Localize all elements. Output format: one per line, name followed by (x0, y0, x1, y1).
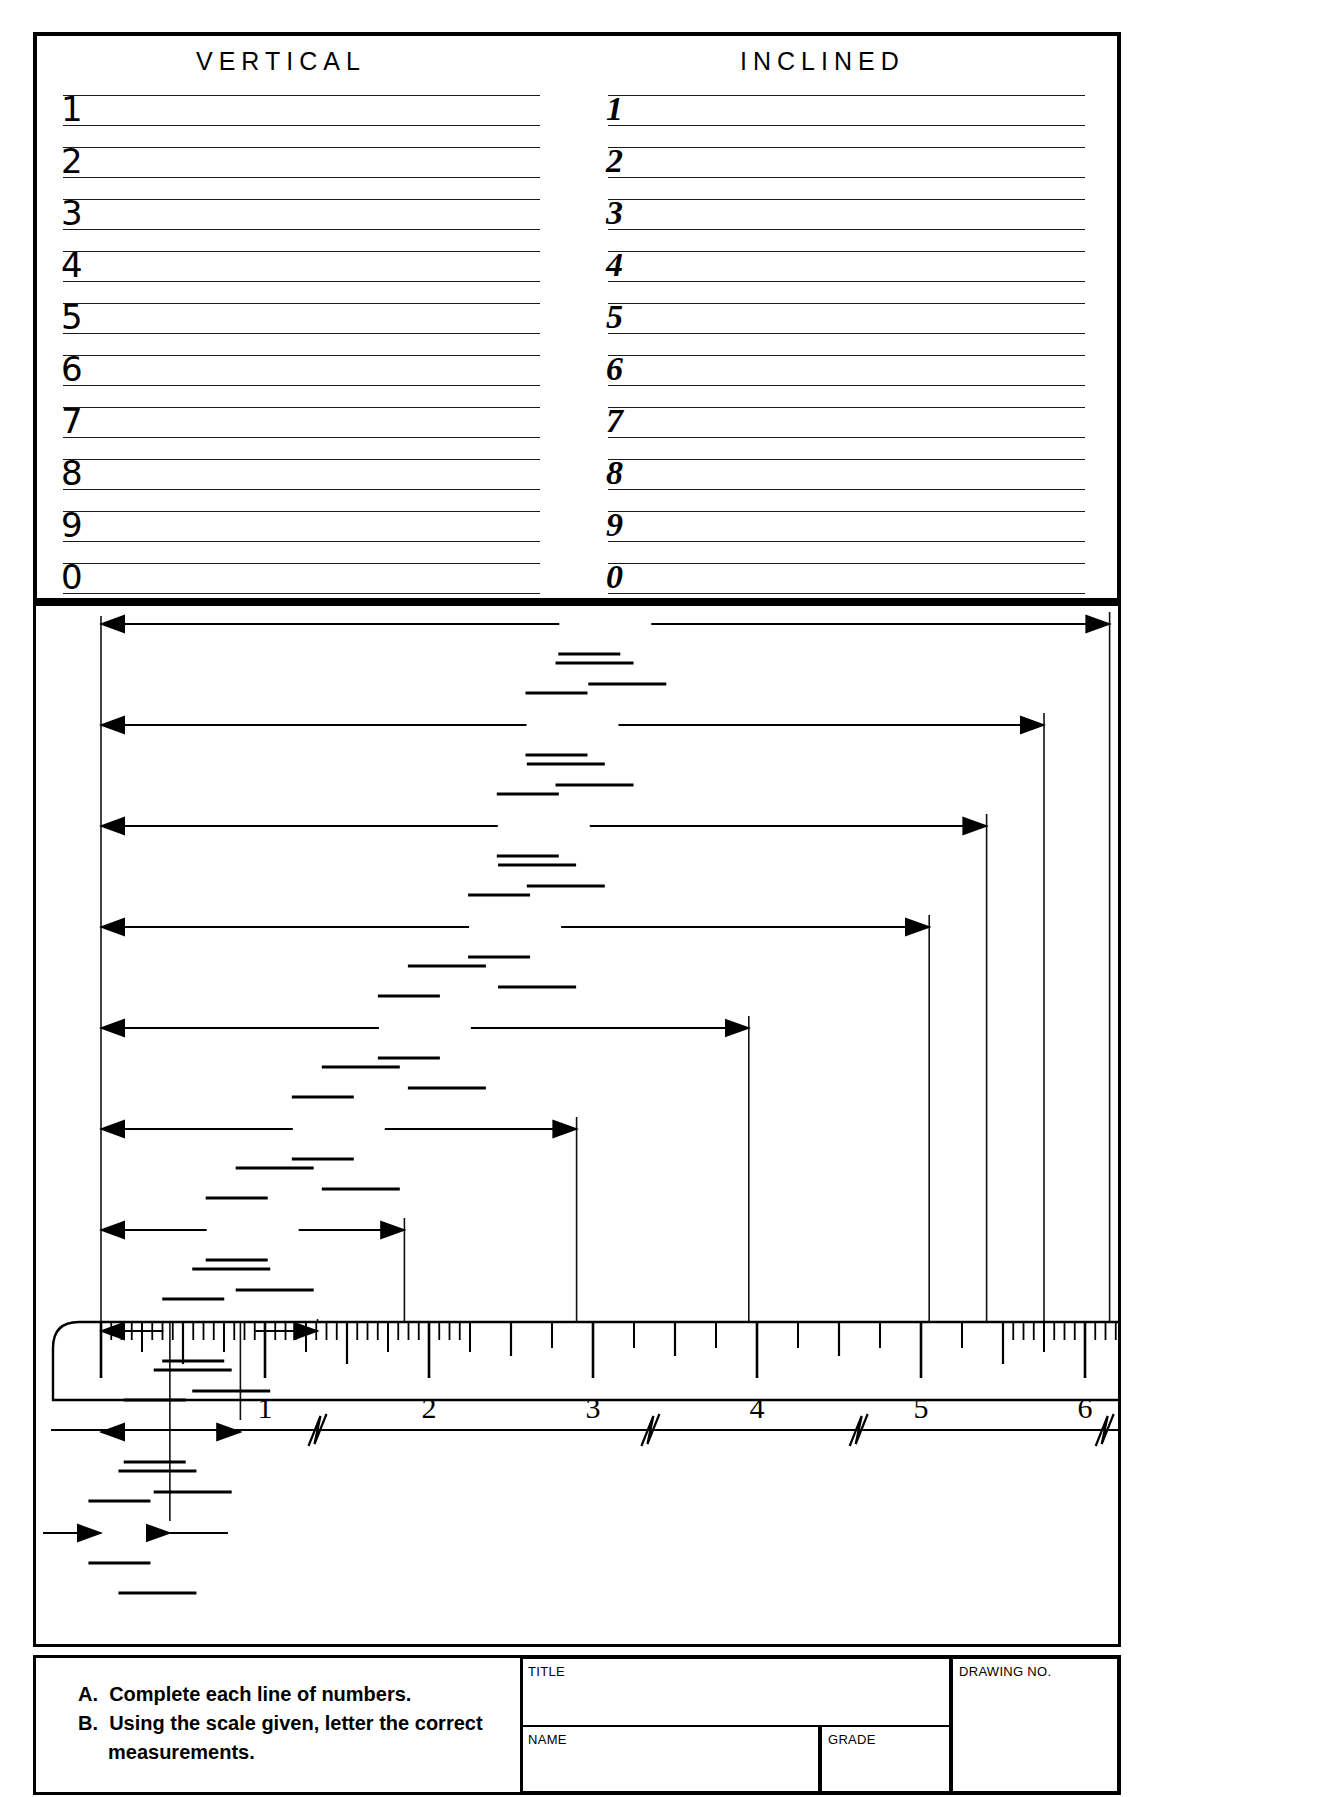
guide-line-top (608, 355, 1085, 356)
guide-line-bottom (63, 333, 540, 334)
ruler-tick-label-4: 4 (750, 1391, 765, 1424)
row-label-3-vertical: 3 (61, 196, 83, 230)
row-label-0-inclined: 0 (606, 560, 623, 594)
ruler-tick-label-1: 1 (258, 1391, 273, 1424)
field-label-drawing-no: DRAWING NO. (959, 1664, 1051, 1679)
ruler-tick-label-3: 3 (586, 1391, 601, 1424)
guide-line-pair (608, 459, 1085, 490)
guide-line-top (63, 407, 540, 408)
row-label-8-vertical: 8 (61, 456, 83, 490)
guide-line-pair (63, 95, 540, 126)
guide-line-top (608, 199, 1085, 200)
guide-line-bottom (63, 385, 540, 386)
guide-line-bottom (63, 229, 540, 230)
dimension-drawing-area: 123456 (33, 602, 1121, 1647)
guide-line-pair (63, 563, 540, 594)
row-label-2-vertical: 2 (61, 144, 83, 178)
guide-line-pair (608, 355, 1085, 386)
guide-line-top (608, 95, 1085, 96)
guide-line-bottom (63, 281, 540, 282)
guide-line-bottom (63, 593, 540, 594)
row-label-1-inclined: 1 (606, 92, 623, 126)
guide-line-pair (608, 303, 1085, 334)
guide-line-pair (608, 251, 1085, 282)
guide-line-top (608, 459, 1085, 460)
row-label-4-inclined: 4 (606, 248, 623, 282)
row-label-4-vertical: 4 (61, 248, 83, 282)
guide-line-top (608, 511, 1085, 512)
dimension-lines (43, 624, 1110, 1533)
guide-line-pair (608, 147, 1085, 178)
guide-line-top (63, 147, 540, 148)
field-label-grade: GRADE (828, 1732, 876, 1747)
guide-line-pair (63, 459, 540, 490)
ruler-tick-label-6: 6 (1078, 1391, 1093, 1424)
guide-line-pair (63, 407, 540, 438)
guide-line-bottom (608, 489, 1085, 490)
row-label-6-inclined: 6 (606, 352, 623, 386)
guide-line-top (63, 303, 540, 304)
row-label-5-vertical: 5 (61, 300, 83, 334)
guide-line-bottom (608, 333, 1085, 334)
column-heading-inclined: INCLINED (740, 47, 905, 76)
guide-line-top (63, 459, 540, 460)
row-label-8-inclined: 8 (606, 456, 623, 490)
guide-line-pair (608, 95, 1085, 126)
extension-lines (101, 612, 1110, 1521)
column-heading-vertical: VERTICAL (196, 47, 366, 76)
guide-line-pair (63, 355, 540, 386)
inch-scale-ruler: 123456 (51, 1322, 1121, 1446)
guide-line-top (63, 355, 540, 356)
guide-line-bottom (608, 437, 1085, 438)
guide-line-pair (63, 147, 540, 178)
worksheet-sheet: VERTICAL INCLINED 11223344556677889900 1… (0, 0, 1321, 1797)
guide-line-bottom (608, 385, 1085, 386)
guide-line-pair (63, 199, 540, 230)
guide-line-pair (608, 511, 1085, 542)
guide-line-top (608, 251, 1085, 252)
instruction-a-text: Complete each line of numbers. (109, 1683, 411, 1705)
guide-line-top (63, 199, 540, 200)
row-label-6-vertical: 6 (61, 352, 83, 386)
dimension-lines-svg: 123456 (33, 602, 1121, 1647)
row-label-7-inclined: 7 (606, 404, 623, 438)
row-label-7-vertical: 7 (61, 404, 83, 438)
instruction-b-text: Using the scale given, letter the correc… (109, 1712, 482, 1734)
row-label-3-inclined: 3 (606, 196, 623, 230)
row-label-1-vertical: 1 (61, 92, 83, 126)
row-label-0-vertical: 0 (61, 560, 83, 594)
guide-line-bottom (63, 125, 540, 126)
ruler-tick-label-2: 2 (422, 1391, 437, 1424)
lettering-guide-lines (88, 602, 666, 1593)
guide-line-top (608, 407, 1085, 408)
guide-line-bottom (608, 541, 1085, 542)
field-title[interactable] (520, 1657, 951, 1727)
row-label-2-inclined: 2 (606, 144, 623, 178)
guide-line-pair (608, 199, 1085, 230)
row-label-9-inclined: 9 (606, 508, 623, 542)
guide-line-pair (63, 511, 540, 542)
guide-line-top (608, 563, 1085, 564)
row-label-5-inclined: 5 (606, 300, 623, 334)
guide-line-bottom (608, 593, 1085, 594)
guide-line-bottom (608, 229, 1085, 230)
field-label-name: NAME (528, 1732, 567, 1747)
guide-line-bottom (63, 177, 540, 178)
guide-line-bottom (608, 281, 1085, 282)
guide-line-pair (63, 303, 540, 334)
instruction-a-key: A. (78, 1683, 98, 1705)
guide-line-top (63, 511, 540, 512)
field-label-title: TITLE (528, 1664, 565, 1679)
guide-line-top (63, 251, 540, 252)
instruction-b-key: B. (78, 1712, 98, 1734)
guide-line-top (608, 147, 1085, 148)
title-block-divider (520, 1657, 523, 1793)
ruler-tick-label-5: 5 (914, 1391, 929, 1424)
guide-line-pair (608, 563, 1085, 594)
guide-line-bottom (608, 177, 1085, 178)
guide-line-top (63, 95, 540, 96)
guide-line-pair (63, 251, 540, 282)
guide-line-bottom (63, 489, 540, 490)
instruction-b: B. Using the scale given, letter the cor… (78, 1709, 483, 1738)
instructions: A. Complete each line of numbers.B. Usin… (78, 1680, 483, 1767)
